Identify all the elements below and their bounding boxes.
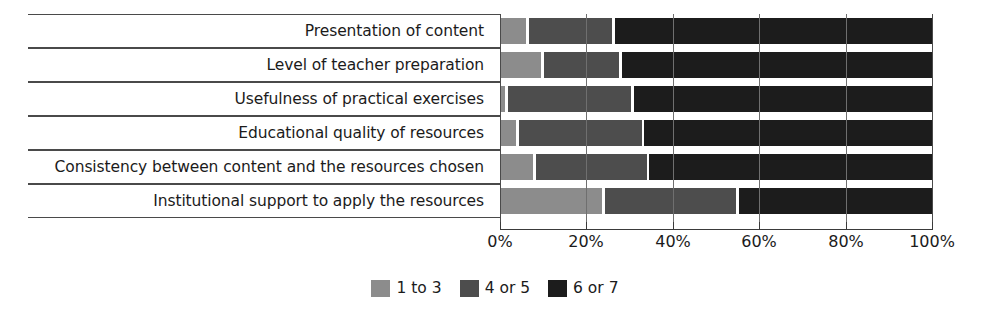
legend-label: 6 or 7 [573,279,618,297]
x-axis-tick [673,222,674,230]
category-label: Presentation of content [28,14,492,48]
x-tick-label: 100% [909,232,955,251]
bar-segment-6or7 [615,18,932,44]
x-axis-tick [586,222,587,230]
category-label: Educational quality of resources [28,116,492,150]
chart-row: Level of teacher preparation [28,48,934,82]
x-tick-label: 80% [828,232,864,251]
chart-row: Consistency between content and the reso… [28,150,934,184]
bar-segment-4or5 [605,188,736,214]
stacked-bar-chart: Presentation of content Level of teacher… [0,0,990,313]
x-tick-label: 40% [655,232,691,251]
x-tick-label: 60% [741,232,777,251]
legend-label: 4 or 5 [485,279,530,297]
legend-swatch-icon [548,280,567,297]
category-label: Consistency between content and the reso… [28,150,492,184]
bar-segment-6or7 [622,52,932,78]
x-axis-line [500,229,933,230]
bar-segment-1to3 [500,18,526,44]
bar-segment-6or7 [739,188,932,214]
bar-segment-1to3 [500,52,541,78]
category-label: Institutional support to apply the resou… [28,184,492,218]
bar-segment-4or5 [508,86,632,112]
category-label: Level of teacher preparation [28,48,492,82]
category-label: Usefulness of practical exercises [28,82,492,116]
bar-segment-4or5 [544,52,620,78]
x-axis-tick [846,222,847,230]
x-tick-label: 0% [487,232,512,251]
bar-segment-6or7 [634,86,932,112]
x-tick-label: 20% [568,232,604,251]
bar-track [500,86,932,112]
x-axis-tick-labels: 0% 20% 40% 60% 80% 100% [0,232,990,254]
bar-segment-1to3 [500,154,533,180]
bar-track [500,18,932,44]
bar-track [500,52,932,78]
bar-segment-1to3 [500,86,505,112]
chart-row: Educational quality of resources [28,116,934,150]
chart-legend: 1 to 3 4 or 5 6 or 7 [0,276,990,300]
bar-segment-4or5 [536,154,647,180]
legend-item-4or5: 4 or 5 [460,279,530,297]
legend-swatch-icon [371,280,390,297]
plot-area: Presentation of content Level of teacher… [28,14,934,222]
chart-row: Usefulness of practical exercises [28,82,934,116]
bar-segment-4or5 [519,120,642,146]
bar-segment-4or5 [529,18,613,44]
x-axis-tick [759,222,760,230]
chart-row: Institutional support to apply the resou… [28,184,934,218]
bar-track [500,188,932,214]
x-axis-tick [932,222,933,230]
bar-segment-1to3 [500,188,602,214]
legend-item-1to3: 1 to 3 [371,279,441,297]
x-axis-tick [500,222,501,230]
bar-track [500,120,932,146]
bar-segment-1to3 [500,120,516,146]
bar-segment-6or7 [649,154,932,180]
bar-segment-6or7 [644,120,932,146]
bar-track [500,154,932,180]
legend-item-6or7: 6 or 7 [548,279,618,297]
chart-row: Presentation of content [28,14,934,48]
legend-label: 1 to 3 [396,279,441,297]
legend-swatch-icon [460,280,479,297]
